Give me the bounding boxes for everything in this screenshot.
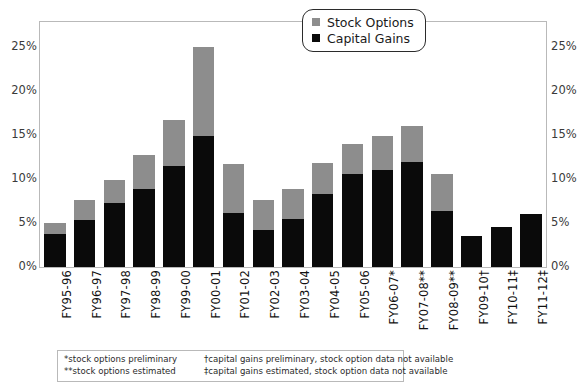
x-axis-tick-label: FY00-01 [209,270,223,342]
footnote-left-1: *stock options preliminary [64,354,204,366]
bar-column [312,22,333,267]
footnote-row: **stock options estimated ‡capital gains… [64,366,397,378]
x-axis-tick-label: FY08-09** [447,270,461,342]
x-axis-tick-label: FY03-04 [298,270,312,342]
bar-segment-stock-options [401,126,422,162]
bar-segment-capital-gains [74,220,95,267]
bar-segment-capital-gains [491,227,512,267]
x-axis-tick-label: FY97-98 [119,270,133,342]
x-axis-tick-label: FY04-05 [328,270,342,342]
bar-column [401,22,422,267]
x-axis-tick-label: FY96-97 [90,270,104,342]
footnote-left-2: **stock options estimated [64,366,204,378]
bar-segment-capital-gains [461,236,482,267]
legend-item-capital-gains: Capital Gains [312,30,414,46]
y-axis-tick-label-left: 5% [19,217,37,228]
bar-column [193,22,214,267]
bar-segment-capital-gains [401,162,422,267]
bar-segment-stock-options [133,155,154,189]
y-axis-tick-label-right: 10% [551,173,577,184]
footnote-right-2: ‡capital gains estimated, stock option d… [204,366,448,378]
y-axis-tick-label-left: 15% [11,129,37,140]
x-axis-tick-label: FY95-96 [60,270,74,342]
x-axis-tick-label: FY99-00 [179,270,193,342]
x-axis-tick-label: FY98-99 [149,270,163,342]
bar-segment-stock-options [163,120,184,166]
stacked-bar-chart-figure: 0%5%10%15%20%25% 0%5%10%15%20%25% FY95-9… [0,0,588,388]
bar-segment-capital-gains [312,194,333,267]
x-axis-tick-label: FY07-08** [417,270,431,342]
bar-segment-capital-gains [431,211,452,267]
footnote-row: *stock options preliminary †capital gain… [64,354,397,366]
x-axis-tick-label: FY10-11‡ [506,270,520,342]
bar-column [461,22,482,267]
x-axis-tick-label: FY09-10† [477,270,491,342]
x-axis-tick-labels: FY95-96FY96-97FY97-98FY98-99FY99-00FY00-… [40,270,546,342]
bar-column [44,22,65,267]
bar-segment-capital-gains [163,166,184,267]
y-axis-tick-label-right: 15% [551,129,577,140]
bar-segment-capital-gains [104,203,125,267]
bar-segment-capital-gains [44,234,65,267]
bar-segment-stock-options [223,164,244,213]
bar-column [163,22,184,267]
legend-item-stock-options: Stock Options [312,14,414,30]
bar-segment-stock-options [44,223,65,234]
y-axis-tick-label-right: 25% [551,41,577,52]
y-axis-tick-label-right: 0% [551,261,569,272]
legend-swatch-stock-options-icon [312,18,320,26]
bar-column [491,22,512,267]
bar-segment-stock-options [342,144,363,174]
y-axis-tick-label-left: 0% [19,261,37,272]
chart-legend: Stock Options Capital Gains [302,9,426,52]
x-axis-tick-label: FY05-06 [358,270,372,342]
bar-segment-capital-gains [342,174,363,267]
bar-column [104,22,125,267]
x-axis-tick-label: FY02-03 [268,270,282,342]
bar-segment-capital-gains [253,230,274,267]
bar-column [133,22,154,267]
bar-segment-stock-options [312,163,333,194]
bar-segment-capital-gains [223,213,244,267]
y-axis-tick-label-right: 20% [551,85,577,96]
footnote-right-1: †capital gains preliminary, stock option… [204,354,453,366]
bar-segment-stock-options [193,47,214,136]
bar-column [223,22,244,267]
legend-label-capital-gains: Capital Gains [327,31,410,46]
bar-segment-capital-gains [372,170,393,267]
footnote-box: *stock options preliminary †capital gain… [57,350,404,382]
bar-segment-capital-gains [282,219,303,267]
bar-segment-stock-options [104,180,125,203]
y-axis-tick-label-left: 10% [11,173,37,184]
bar-segment-stock-options [74,200,95,220]
bar-series-container [40,22,546,267]
y-axis-tick-label-right: 5% [551,217,569,228]
bar-column [342,22,363,267]
bar-column [74,22,95,267]
x-axis-tick-label: FY06-07* [387,270,401,342]
y-axis-tick-label-left: 25% [11,41,37,52]
bar-column [282,22,303,267]
x-axis-tick-label: FY11-12‡ [536,270,550,342]
bar-column [253,22,274,267]
bar-segment-capital-gains [520,214,541,267]
bar-segment-stock-options [431,174,452,212]
legend-label-stock-options: Stock Options [327,15,414,30]
bar-column [431,22,452,267]
bar-column [372,22,393,267]
bar-segment-stock-options [253,200,274,230]
x-axis-tick-label: FY01-02 [238,270,252,342]
y-axis-tick-label-left: 20% [11,85,37,96]
bar-segment-capital-gains [133,189,154,267]
legend-swatch-capital-gains-icon [312,34,320,42]
bar-column [520,22,541,267]
bar-segment-stock-options [282,189,303,219]
bar-segment-capital-gains [193,136,214,267]
bar-segment-stock-options [372,136,393,170]
